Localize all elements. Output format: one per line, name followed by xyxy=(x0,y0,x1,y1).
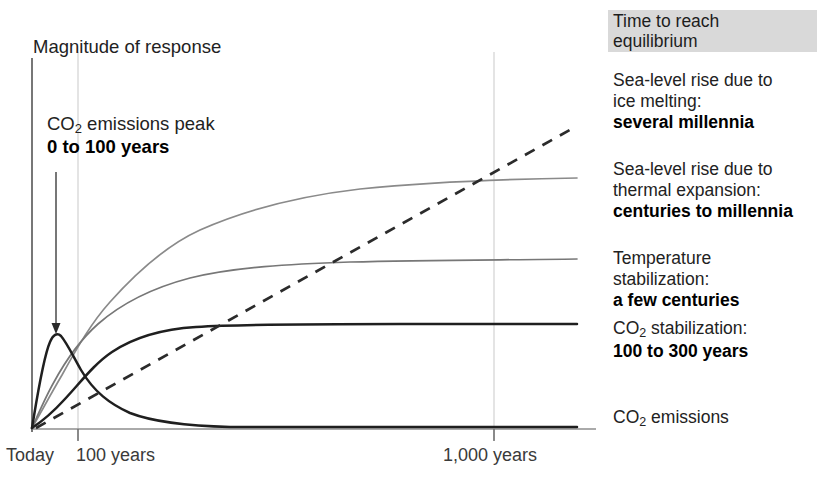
peak-annotation-co2-subscript: 2 xyxy=(75,121,82,136)
peak-annotation: CO2 emissions peak 0 to 100 years xyxy=(47,113,215,157)
legend-item-value: several millennia xyxy=(613,112,817,133)
legend-header-line2: equilibrium xyxy=(613,31,817,51)
x-axis-label-100-years: 100 years xyxy=(76,445,155,466)
legend-item-value: centuries to millennia xyxy=(613,201,817,222)
legend-panel: Time to reach equilibrium Sea-level rise… xyxy=(608,0,817,486)
legend-item-line2: stabilization: xyxy=(613,269,817,290)
legend-item-line1: Temperature xyxy=(613,248,817,269)
curve-sea-level-thermal-expansion xyxy=(32,178,577,428)
peak-annotation-value: 0 to 100 years xyxy=(47,136,215,157)
legend-item-co2-suffix: emissions xyxy=(646,407,729,427)
peak-annotation-co2-suffix: emissions peak xyxy=(82,113,215,134)
legend-item-co2-prefix: CO xyxy=(613,407,639,427)
x-axis-label-1000-years: 1,000 years xyxy=(443,445,537,466)
climate-response-figure: Magnitude of response CO2 emissions peak… xyxy=(0,0,817,486)
legend-item-sea-level-ice-melting: Sea-level rise due to ice melting: sever… xyxy=(613,70,817,132)
curve-sea-level-ice-melting xyxy=(36,126,577,428)
legend-item-line1: Sea-level rise due to xyxy=(613,159,817,180)
legend-header: Time to reach equilibrium xyxy=(608,10,817,52)
legend-header-line1: Time to reach xyxy=(613,11,817,31)
legend-item-co2-emissions: CO2 emissions xyxy=(613,407,817,430)
legend-item-line1: CO2 emissions xyxy=(613,407,817,430)
legend-item-sea-level-thermal-expansion: Sea-level rise due to thermal expansion:… xyxy=(613,159,817,221)
legend-item-value: a few centuries xyxy=(613,290,817,311)
legend-item-co2-stabilization: CO2 stabilization: 100 to 300 years xyxy=(613,318,817,361)
peak-annotation-co2-prefix: CO xyxy=(47,113,75,134)
legend-item-line1: Sea-level rise due to xyxy=(613,70,817,91)
legend-item-line2: ice melting: xyxy=(613,91,817,112)
peak-annotation-line1: CO2 emissions peak xyxy=(47,113,215,136)
legend-item-co2-suffix: stabilization: xyxy=(646,318,747,338)
legend-item-temperature-stabilization: Temperature stabilization: a few centuri… xyxy=(613,248,817,310)
x-axis-label-today: Today xyxy=(6,445,54,466)
legend-item-co2-prefix: CO xyxy=(613,318,639,338)
legend-item-value: 100 to 300 years xyxy=(613,341,817,362)
legend-item-line1: CO2 stabilization: xyxy=(613,318,817,341)
y-axis-title: Magnitude of response xyxy=(33,36,221,57)
curve-co2-emissions xyxy=(32,334,577,428)
legend-item-line2: thermal expansion: xyxy=(613,180,817,201)
curve-temperature-stabilization xyxy=(32,259,577,428)
curve-co2-stabilization xyxy=(32,324,577,428)
peak-annotation-arrow-head xyxy=(52,323,61,334)
